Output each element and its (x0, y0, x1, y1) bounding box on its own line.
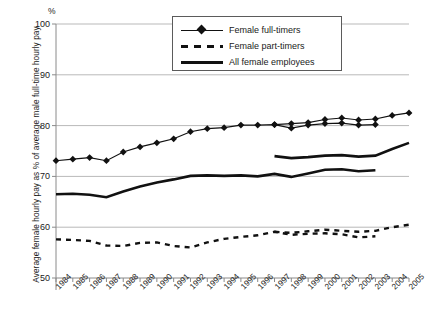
data-point-marker (338, 115, 345, 122)
legend-thick-line-icon (181, 56, 223, 68)
data-point-marker (153, 139, 160, 146)
legend-label: All female employees (229, 57, 315, 67)
legend-item-all-employees: All female employees (181, 54, 341, 70)
legend-dashed-line-icon (181, 40, 223, 52)
data-point-marker (406, 110, 413, 117)
data-point-marker (389, 112, 396, 119)
data-point-marker (271, 121, 278, 128)
data-point-marker (86, 154, 93, 161)
data-point-marker (254, 122, 261, 129)
legend-label: Female part-timers (229, 41, 305, 51)
data-point-marker (238, 122, 245, 129)
series-line-5 (275, 143, 410, 158)
data-point-marker (53, 157, 60, 164)
data-point-marker (69, 156, 76, 163)
data-point-marker (103, 157, 110, 164)
data-point-marker (322, 116, 329, 123)
data-point-marker (120, 149, 127, 156)
chart-legend: Female full-timers Female part-timers Al… (172, 16, 342, 71)
data-point-marker (137, 144, 144, 151)
legend-label: Female full-timers (229, 25, 301, 35)
data-point-marker (187, 128, 194, 135)
legend-line-marker-icon (181, 24, 223, 36)
data-point-marker (204, 125, 211, 132)
data-point-marker (170, 135, 177, 142)
data-point-marker (355, 117, 362, 124)
data-point-marker (372, 116, 379, 123)
series-line-3 (275, 225, 410, 233)
series-line-4 (56, 169, 375, 197)
legend-item-part-timers: Female part-timers (181, 38, 341, 54)
series-line-2 (56, 232, 375, 248)
legend-item-full-timers: Female full-timers (181, 22, 341, 38)
